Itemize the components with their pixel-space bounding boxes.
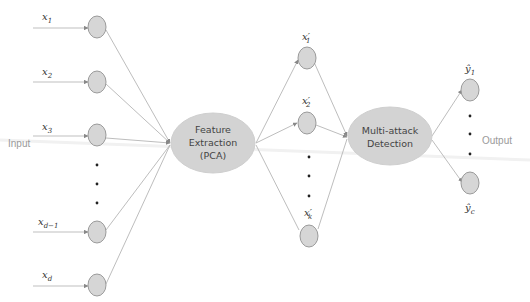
svg-text:Extraction: Extraction bbox=[189, 137, 238, 148]
label-x1-prime: x′1 bbox=[302, 31, 311, 45]
svg-text:Detection: Detection bbox=[367, 138, 413, 149]
input-node-d bbox=[88, 274, 106, 296]
label-xd: xd bbox=[42, 269, 53, 283]
background-streak bbox=[0, 140, 530, 160]
label-y1-hat: ŷ1 bbox=[464, 63, 475, 77]
output-node-c bbox=[461, 172, 479, 194]
output-label: Output bbox=[482, 135, 512, 146]
output-layer: ŷ1 ŷc bbox=[461, 63, 479, 216]
feature-node-2 bbox=[298, 112, 316, 134]
input-to-pca-edges bbox=[106, 30, 170, 284]
input-node-1 bbox=[88, 16, 106, 38]
label-xd-1: xd−1 bbox=[38, 216, 58, 230]
pca-to-features-edges bbox=[256, 60, 299, 230]
label-x2-prime: x′2 bbox=[302, 95, 311, 109]
feature-layer: x′1 x′2 x′k bbox=[298, 31, 318, 247]
feature-node-1 bbox=[298, 47, 316, 69]
features-to-detection-edges bbox=[314, 62, 347, 229]
input-node-d-1 bbox=[88, 221, 106, 243]
feature-node-k bbox=[300, 225, 318, 247]
ellipsis-dot bbox=[308, 195, 311, 198]
ellipsis-dot bbox=[469, 133, 472, 136]
label-xk-prime: x′k bbox=[304, 207, 313, 221]
input-label: Input bbox=[8, 138, 30, 149]
ellipsis-dot bbox=[469, 153, 472, 156]
svg-text:Feature: Feature bbox=[195, 124, 231, 135]
ellipsis-dot bbox=[96, 164, 99, 167]
output-node-1 bbox=[461, 79, 479, 101]
neural-pipeline-diagram: x1 x2 x3 xd−1 xd Input Feature Extractio… bbox=[0, 0, 530, 302]
label-x3: x3 bbox=[42, 121, 53, 135]
svg-text:Multi-attack: Multi-attack bbox=[362, 125, 419, 136]
multi-attack-detection-block: Multi-attack Detection bbox=[348, 107, 432, 165]
ellipsis-dot bbox=[308, 175, 311, 178]
ellipsis-dot bbox=[96, 202, 99, 205]
label-x1: x1 bbox=[42, 11, 52, 25]
ellipsis-dot bbox=[308, 156, 311, 159]
input-node-2 bbox=[88, 71, 106, 93]
input-node-3 bbox=[88, 124, 106, 146]
detection-to-output-edges bbox=[432, 90, 462, 182]
svg-text:(PCA): (PCA) bbox=[200, 150, 226, 161]
input-labels: x1 x2 x3 xd−1 xd bbox=[38, 11, 58, 283]
feature-extraction-block: Feature Extraction (PCA) bbox=[171, 113, 255, 173]
ellipsis-dot bbox=[96, 183, 99, 186]
input-layer bbox=[88, 16, 106, 296]
label-yc-hat: ŷc bbox=[464, 202, 475, 216]
ellipsis-dot bbox=[469, 115, 472, 118]
label-x2: x2 bbox=[42, 66, 53, 80]
